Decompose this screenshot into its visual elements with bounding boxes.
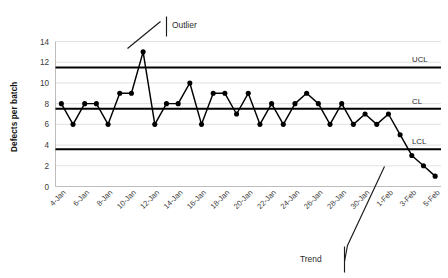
outlier-leader-line (128, 22, 161, 49)
series-marker (211, 91, 216, 96)
control-chart: Defects per batch 02468101214 4-Jan6-Jan… (0, 0, 448, 278)
x-tick-label: 6-Jan (71, 188, 91, 208)
y-tick-label: 14 (40, 38, 50, 47)
series-marker (316, 101, 321, 106)
control-limit-label-cl: CL (412, 97, 423, 106)
series-marker (374, 122, 379, 127)
y-tick-label: 8 (44, 100, 49, 109)
series-marker (351, 122, 356, 127)
y-tick-label: 2 (44, 162, 49, 171)
series-marker (421, 163, 426, 168)
series-marker (59, 101, 64, 106)
series-marker (82, 101, 87, 106)
control-limit-lines-group (56, 67, 442, 149)
series-markers-group (59, 49, 438, 178)
series-marker (222, 91, 227, 96)
series-marker (386, 111, 391, 116)
series-marker (409, 153, 414, 158)
x-tick-label: 20-Jan (232, 188, 255, 211)
x-tick-label: 24-Jan (279, 188, 302, 211)
series-marker (363, 111, 368, 116)
series-marker (398, 132, 403, 137)
series-marker (70, 122, 75, 127)
outlier-annotation-label: Outlier (172, 20, 197, 30)
series-line-defects-per-batch (61, 52, 435, 176)
x-tick-label: 26-Jan (302, 188, 325, 211)
y-tick-label: 6 (44, 120, 49, 129)
gridlines-group (56, 42, 442, 166)
series-marker (187, 80, 192, 85)
x-tick-label: 22-Jan (255, 188, 278, 211)
chart-canvas: Defects per batch 02468101214 4-Jan6-Jan… (0, 0, 448, 278)
control-limit-labels-group: UCLCLLCL (412, 55, 428, 146)
x-tick-label: 10-Jan (115, 188, 138, 211)
series-marker (292, 101, 297, 106)
series-marker (106, 122, 111, 127)
series-marker (117, 91, 122, 96)
trend-leader-line (345, 167, 385, 262)
y-tick-label: 10 (40, 79, 50, 88)
y-axis-title: Defects per batch (10, 82, 19, 152)
series-marker (327, 122, 332, 127)
series-marker (234, 111, 239, 116)
annotation-trend: Trend (300, 167, 385, 273)
x-tick-label: 5-Feb (421, 188, 441, 208)
x-tick-label: 28-Jan (325, 188, 348, 211)
x-tick-label: 18-Jan (209, 188, 232, 211)
y-tick-label: 12 (40, 58, 50, 67)
y-tick-labels-group: 02468101214 (40, 38, 50, 192)
series-marker (199, 122, 204, 127)
x-tick-label: 14-Jan (162, 188, 185, 211)
x-tick-label: 4-Jan (48, 188, 68, 208)
series-marker (339, 101, 344, 106)
series-marker (94, 101, 99, 106)
x-tick-label: 12-Jan (138, 188, 161, 211)
series-marker (176, 101, 181, 106)
x-tick-label: 1-Feb (374, 188, 394, 208)
x-tick-label: 3-Feb (398, 188, 418, 208)
y-tick-label: 4 (44, 141, 49, 150)
series-marker (304, 91, 309, 96)
x-tick-label: 16-Jan (185, 188, 208, 211)
x-tick-labels-group: 4-Jan6-Jan8-Jan10-Jan12-Jan14-Jan16-Jan1… (48, 188, 442, 211)
series-marker (129, 91, 134, 96)
series-marker (164, 101, 169, 106)
x-tick-label: 30-Jan (349, 188, 372, 211)
x-tick-label: 8-Jan (95, 188, 115, 208)
series-marker (433, 174, 438, 179)
control-limit-label-lcl: LCL (412, 137, 427, 146)
series-marker (152, 122, 157, 127)
trend-annotation-label: Trend (300, 254, 322, 264)
series-marker (257, 122, 262, 127)
y-tick-label: 0 (44, 183, 49, 192)
annotation-outlier: Outlier (128, 17, 197, 49)
series-marker (281, 122, 286, 127)
control-limit-label-ucl: UCL (412, 55, 428, 64)
series-marker (246, 91, 251, 96)
series-marker (269, 101, 274, 106)
series-marker (141, 49, 146, 54)
